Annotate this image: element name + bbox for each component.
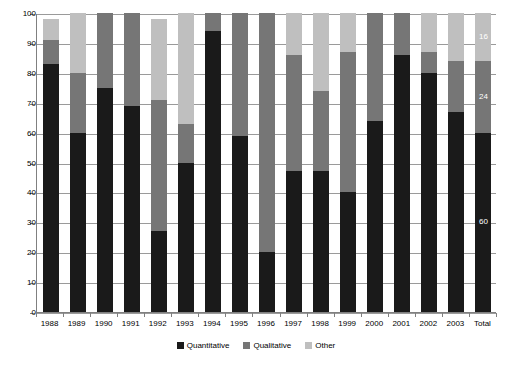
bar-segment-qualitative[interactable] (259, 13, 275, 252)
x-axis-label: Total (469, 319, 496, 328)
bar-segment-quantitative[interactable] (124, 106, 140, 312)
bar-segment-qualitative[interactable] (448, 61, 464, 112)
bar-group[interactable] (313, 13, 329, 312)
bar-segment-other[interactable] (340, 13, 356, 52)
x-axis-tick (225, 313, 226, 317)
bar-group[interactable] (394, 13, 410, 312)
legend-label: Qualitative (253, 341, 291, 350)
bar-value-label: 24 (475, 93, 491, 101)
x-axis-label: 1996 (252, 319, 279, 328)
bar-group[interactable] (151, 13, 167, 312)
legend-label: Quantitative (187, 341, 230, 350)
x-axis-label: 1993 (171, 319, 198, 328)
bar-segment-other[interactable] (421, 13, 437, 52)
legend-label: Other (315, 341, 335, 350)
legend-item-qualitative[interactable]: Qualitative (243, 341, 291, 350)
bar-value-label: 16 (475, 33, 491, 41)
bar-segment-quantitative[interactable]: 60 (475, 133, 491, 312)
bar-group[interactable] (97, 13, 113, 312)
bar-group[interactable] (421, 13, 437, 312)
x-axis-label: 1988 (36, 319, 63, 328)
bar-segment-other[interactable] (448, 13, 464, 61)
x-axis-label: 1997 (280, 319, 307, 328)
x-axis-label: 1991 (117, 319, 144, 328)
y-axis-label: 10 (10, 279, 36, 287)
bar-segment-quantitative[interactable] (178, 163, 194, 313)
x-axis-tick (307, 313, 308, 317)
bar-group[interactable]: 602416 (475, 13, 491, 312)
y-axis-label: 60 (10, 130, 36, 138)
bar-group[interactable] (286, 13, 302, 312)
bar-group[interactable] (43, 13, 59, 312)
bar-segment-qualitative[interactable] (43, 40, 59, 64)
bar-segment-other[interactable]: 16 (475, 13, 491, 61)
bar-segment-quantitative[interactable] (70, 133, 86, 312)
bar-segment-qualitative[interactable] (70, 73, 86, 133)
bar-group[interactable] (124, 13, 140, 312)
bar-segment-other[interactable] (313, 13, 329, 91)
bar-segment-other[interactable] (178, 13, 194, 124)
bar-segment-qualitative[interactable] (286, 55, 302, 172)
bar-segment-quantitative[interactable] (313, 171, 329, 312)
bar-segment-other[interactable] (43, 19, 59, 40)
bar-segment-other[interactable] (151, 19, 167, 100)
bar-segment-other[interactable] (70, 13, 86, 73)
bar-group[interactable] (259, 13, 275, 312)
x-axis-tick (36, 313, 37, 317)
bar-group[interactable] (205, 13, 221, 312)
bar-segment-qualitative[interactable] (178, 124, 194, 163)
legend-item-quantitative[interactable]: Quantitative (177, 341, 230, 350)
x-axis-label: 1990 (90, 319, 117, 328)
bar-group[interactable] (340, 13, 356, 312)
legend-swatch-icon (177, 342, 184, 349)
bar-segment-other[interactable] (286, 13, 302, 55)
x-axis-tick (117, 313, 118, 317)
bar-segment-qualitative[interactable] (367, 13, 383, 121)
x-axis-label: 2002 (415, 319, 442, 328)
bar-segment-qualitative[interactable] (394, 13, 410, 55)
bar-segment-quantitative[interactable] (394, 55, 410, 312)
bar-segment-quantitative[interactable] (421, 73, 437, 312)
bar-group[interactable] (232, 13, 248, 312)
bar-segment-quantitative[interactable] (151, 231, 167, 312)
x-axis-label: 2001 (388, 319, 415, 328)
chart-legend: QuantitativeQualitativeOther (0, 341, 512, 350)
x-axis-label: 1998 (307, 319, 334, 328)
bar-segment-quantitative[interactable] (286, 171, 302, 312)
x-axis-tick (198, 313, 199, 317)
bar-segment-qualitative[interactable] (205, 13, 221, 31)
y-axis-label: 40 (10, 189, 36, 197)
x-axis-tick (388, 313, 389, 317)
plot-area: 602416 (36, 14, 496, 313)
legend-item-other[interactable]: Other (305, 341, 335, 350)
bar-segment-qualitative[interactable] (124, 13, 140, 106)
bar-segment-qualitative[interactable] (340, 52, 356, 193)
bar-segment-quantitative[interactable] (43, 64, 59, 312)
x-axis-label: 2003 (442, 319, 469, 328)
bar-group[interactable] (448, 13, 464, 312)
x-axis-label: 1994 (198, 319, 225, 328)
bar-segment-qualitative[interactable]: 24 (475, 61, 491, 133)
bar-segment-qualitative[interactable] (151, 100, 167, 232)
bar-segment-qualitative[interactable] (97, 13, 113, 88)
x-axis-label: 1995 (225, 319, 252, 328)
bar-group[interactable] (367, 13, 383, 312)
y-axis: 0102030405060708090100 (0, 0, 36, 367)
bar-segment-qualitative[interactable] (313, 91, 329, 172)
bar-group[interactable] (178, 13, 194, 312)
bar-segment-quantitative[interactable] (259, 252, 275, 312)
bar-segment-quantitative[interactable] (205, 31, 221, 312)
y-axis-label: 50 (10, 160, 36, 168)
x-axis-tick (252, 313, 253, 317)
bar-segment-quantitative[interactable] (97, 88, 113, 312)
bar-value-label: 60 (475, 218, 491, 226)
bar-segment-qualitative[interactable] (421, 52, 437, 73)
bar-segment-quantitative[interactable] (340, 192, 356, 312)
bar-segment-quantitative[interactable] (232, 136, 248, 312)
bar-group[interactable] (70, 13, 86, 312)
x-axis-tick (171, 313, 172, 317)
bar-segment-qualitative[interactable] (232, 13, 248, 136)
x-axis-tick (63, 313, 64, 317)
bar-segment-quantitative[interactable] (448, 112, 464, 312)
bar-segment-quantitative[interactable] (367, 121, 383, 312)
